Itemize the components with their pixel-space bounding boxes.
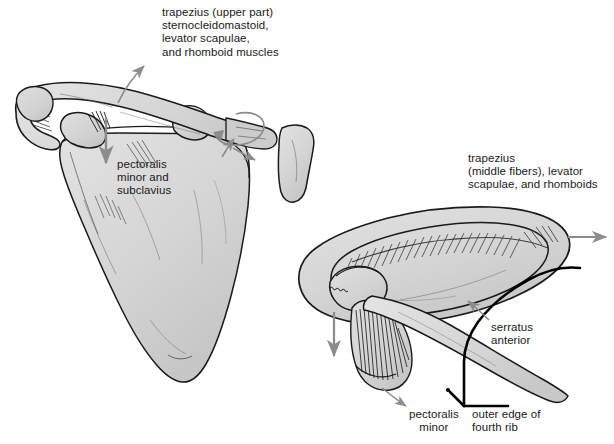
label-pectoralis-minor: pectoralis minor	[409, 408, 459, 434]
label-outer-edge-fourth-rib-text: outer edge of fourth rib	[472, 408, 540, 433]
label-serratus-anterior: serratus anterior	[491, 321, 533, 347]
anatomy-figure-page: trapezius (upper part) sternocleidomasto…	[0, 0, 614, 444]
anatomy-illustration	[0, 0, 614, 444]
pectoralis-minor-arrow	[382, 388, 406, 406]
right-scapula	[299, 207, 570, 324]
label-pectoralis-minor-subclavius-text: pectoralis minor and subclavius	[117, 158, 171, 196]
label-trapezius-upper-text: trapezius (upper part) sternocleidomasto…	[162, 6, 279, 58]
label-outer-edge-fourth-rib: outer edge of fourth rib	[472, 408, 540, 434]
rib-marker-dot	[446, 388, 450, 392]
sternum-body	[278, 125, 313, 202]
label-pectoralis-minor-text: pectoralis minor	[409, 408, 459, 433]
label-trapezius-middle: trapezius (middle fibers), levator scapu…	[468, 152, 598, 192]
label-pectoralis-minor-subclavius: pectoralis minor and subclavius	[117, 158, 171, 198]
right-scapula-body	[299, 207, 570, 324]
label-trapezius-middle-text: trapezius (middle fibers), levator scapu…	[468, 152, 598, 190]
label-trapezius-upper: trapezius (upper part) sternocleidomasto…	[162, 6, 279, 59]
label-serratus-anterior-text: serratus anterior	[491, 321, 533, 346]
sternum-fragment	[278, 125, 313, 202]
